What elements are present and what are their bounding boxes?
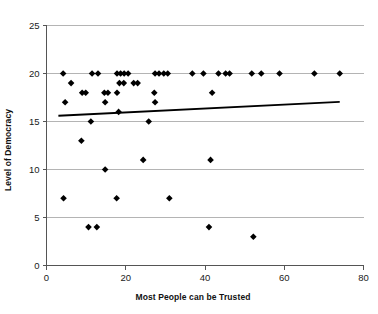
data-point — [94, 224, 101, 231]
data-point — [215, 70, 222, 77]
data-point — [152, 99, 159, 106]
x-tick-label-80: 80 — [358, 272, 369, 283]
data-points-group — [60, 70, 343, 240]
data-point — [105, 89, 112, 96]
data-point — [102, 99, 109, 106]
data-point — [189, 70, 196, 77]
y-tick-labels-group: 0510152025 — [29, 20, 40, 271]
data-point — [311, 70, 318, 77]
data-point — [95, 70, 102, 77]
data-point — [145, 118, 152, 125]
y-axis-title: Level of Democracy — [3, 109, 13, 191]
data-point — [114, 89, 121, 96]
data-point — [226, 70, 233, 77]
data-point — [151, 89, 158, 96]
data-point — [276, 70, 283, 77]
data-point — [113, 195, 120, 202]
data-point — [60, 195, 67, 202]
trendline-group — [58, 102, 339, 116]
data-point — [85, 224, 92, 231]
data-point — [336, 70, 343, 77]
trend-line — [58, 102, 339, 116]
scatter-chart: 0510152025 020406080 Most People can be … — [0, 0, 378, 314]
data-point — [206, 224, 213, 231]
data-point — [166, 195, 173, 202]
data-point — [200, 70, 207, 77]
axes-group — [47, 26, 364, 266]
tick-marks-group — [43, 26, 364, 270]
data-point — [62, 99, 69, 106]
x-tick-label-0: 0 — [44, 272, 49, 283]
data-point — [88, 118, 95, 125]
data-point — [120, 80, 127, 87]
x-tick-labels-group: 020406080 — [44, 272, 369, 283]
data-point — [207, 157, 214, 164]
data-point — [60, 70, 67, 77]
y-tick-label-20: 20 — [29, 68, 40, 79]
data-point — [258, 70, 265, 77]
data-point — [250, 233, 257, 240]
y-tick-label-15: 15 — [29, 116, 40, 127]
data-point — [82, 89, 89, 96]
data-point — [125, 70, 132, 77]
y-tick-label-0: 0 — [34, 260, 39, 271]
y-tick-label-25: 25 — [29, 20, 40, 31]
data-point — [89, 70, 96, 77]
data-point — [68, 80, 75, 87]
x-axis-title: Most People can be Trusted — [135, 292, 250, 302]
x-tick-label-20: 20 — [120, 272, 131, 283]
chart-canvas: 0510152025 020406080 Most People can be … — [0, 0, 378, 314]
data-point — [102, 166, 109, 173]
data-point — [134, 80, 141, 87]
x-tick-label-60: 60 — [279, 272, 290, 283]
data-point — [209, 89, 216, 96]
y-tick-label-10: 10 — [29, 164, 40, 175]
x-tick-label-40: 40 — [200, 272, 211, 283]
data-point — [164, 70, 171, 77]
data-point — [248, 70, 255, 77]
y-tick-label-5: 5 — [34, 212, 39, 223]
data-point — [140, 157, 147, 164]
data-point — [78, 137, 85, 144]
